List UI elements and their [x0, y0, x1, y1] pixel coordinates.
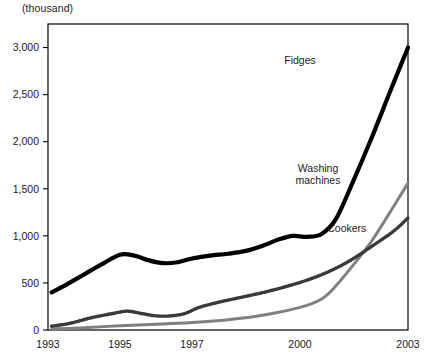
- x-axis-tick-label: 1995: [108, 338, 132, 350]
- x-axis-tick-label: 2000: [288, 338, 312, 350]
- y-axis-tick-label: 1,500: [13, 183, 39, 195]
- y-axis-tick-label: 500: [21, 277, 39, 289]
- x-axis-tick-label: 2003: [396, 338, 420, 350]
- y-axis-tick-label: 1,000: [13, 230, 39, 242]
- y-axis-tick-label: 3,000: [13, 41, 39, 53]
- x-axis-tick-label: 1997: [180, 338, 204, 350]
- y-axis-tick-label: 0: [33, 324, 39, 336]
- series-label-cookers: Cookers: [327, 222, 366, 234]
- line-chart: (thousand) 05001,0001,5002,0002,5003,000…: [0, 0, 431, 359]
- series-line-cookers: [52, 218, 408, 326]
- series-label-fidges: Fidges: [284, 54, 316, 66]
- series-path-group: [52, 48, 408, 330]
- y-axis-tick-group: 05001,0001,5002,0002,5003,000: [13, 41, 48, 335]
- x-axis-tick-label: 1993: [36, 338, 60, 350]
- x-axis-tick-group: 19931995199720002003: [36, 338, 420, 350]
- y-axis-tick-label: 2,500: [13, 88, 39, 100]
- series-label-washing-machines: Washing: [298, 162, 339, 174]
- series-label-group: FidgesWashingmachinesCookers: [284, 54, 366, 234]
- series-line-fidges: [52, 48, 408, 293]
- series-label-washing-machines: machines: [296, 174, 341, 186]
- chart-plot-area: 05001,0001,5002,0002,5003,000 1993199519…: [0, 0, 431, 359]
- y-axis-tick-label: 2,000: [13, 135, 39, 147]
